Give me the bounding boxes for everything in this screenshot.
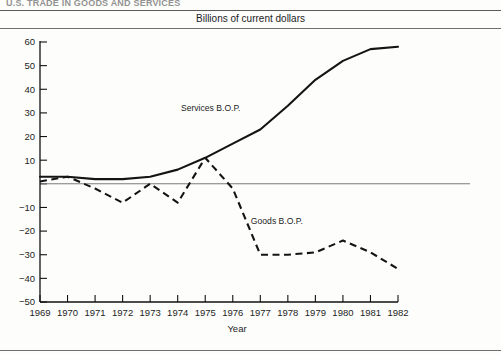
svg-text:−10: −10	[19, 202, 35, 213]
svg-text:−40: −40	[19, 273, 35, 284]
svg-text:1969: 1969	[29, 307, 50, 318]
series-annotations: Services B.O.P.Goods B.O.P.	[181, 103, 303, 226]
svg-text:1981: 1981	[360, 307, 381, 318]
svg-text:50: 50	[24, 60, 35, 71]
series-line-services	[40, 47, 398, 179]
svg-text:1975: 1975	[195, 307, 216, 318]
y-axis-ticks: 605040302010−10−20−30−40−50	[19, 36, 47, 307]
svg-text:40: 40	[24, 84, 35, 95]
svg-text:1973: 1973	[140, 307, 161, 318]
svg-text:−30: −30	[19, 249, 35, 260]
svg-text:Services B.O.P.: Services B.O.P.	[181, 103, 241, 113]
svg-text:−20: −20	[19, 225, 35, 236]
svg-text:1978: 1978	[277, 307, 298, 318]
svg-text:1974: 1974	[167, 307, 188, 318]
svg-text:20: 20	[24, 131, 35, 142]
svg-text:10: 10	[24, 155, 35, 166]
svg-text:−50: −50	[19, 296, 35, 307]
svg-text:1982: 1982	[387, 307, 408, 318]
svg-text:1970: 1970	[57, 307, 78, 318]
series-line-goods	[40, 158, 398, 269]
svg-text:1971: 1971	[85, 307, 106, 318]
svg-text:1980: 1980	[332, 307, 353, 318]
line-chart: 605040302010−10−20−30−40−50 196919701971…	[0, 0, 501, 355]
x-axis-ticks: 1969197019711972197319741975197619771978…	[29, 295, 408, 318]
svg-text:1976: 1976	[222, 307, 243, 318]
svg-text:1972: 1972	[112, 307, 133, 318]
svg-text:Goods B.O.P.: Goods B.O.P.	[251, 216, 303, 226]
x-axis-title: Year	[227, 323, 246, 334]
svg-text:1979: 1979	[305, 307, 326, 318]
svg-text:30: 30	[24, 107, 35, 118]
chart-page: U.S. TRADE IN GOODS AND SERVICES Billion…	[0, 0, 501, 355]
svg-text:1977: 1977	[250, 307, 271, 318]
svg-text:60: 60	[24, 36, 35, 47]
